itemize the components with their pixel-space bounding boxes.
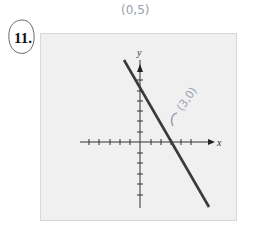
x-axis-arrow-icon	[208, 139, 215, 145]
y-axis-label: y	[136, 47, 142, 58]
y-axis-arrow-icon	[137, 64, 143, 72]
plot-area: x y	[0, 0, 260, 232]
x-axis-label: x	[216, 137, 222, 148]
handwritten-mark	[172, 113, 177, 126]
data-line	[124, 60, 209, 207]
